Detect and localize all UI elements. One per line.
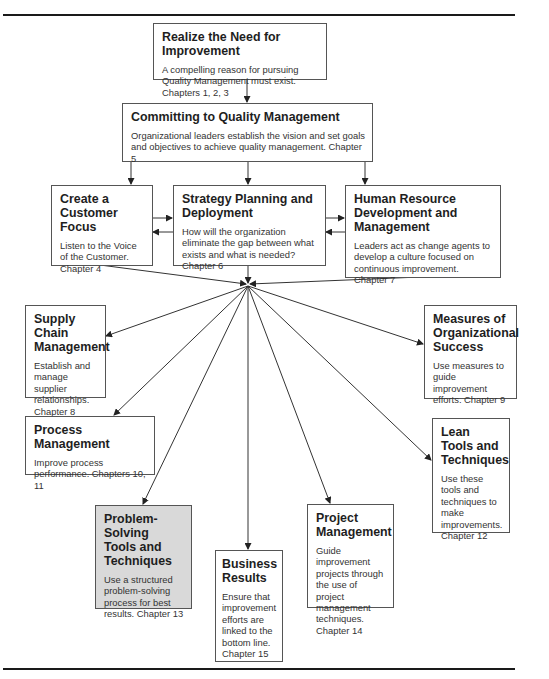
- box-human-resource: Human Resource Development and Managemen…: [345, 185, 501, 278]
- box-title: Project Management: [316, 511, 386, 539]
- box-title: Problem-Solving Tools and Techniques: [104, 512, 184, 568]
- box-title: Strategy Planning and Deployment: [182, 192, 318, 220]
- box-strategy: Strategy Planning and Deployment How wil…: [173, 185, 326, 266]
- box-supply-chain: Supply Chain Management Establish and ma…: [25, 305, 106, 398]
- box-description: Use a structured problem-solving process…: [104, 574, 184, 620]
- bottom-rule: [3, 668, 515, 670]
- box-description: A compelling reason for pursuing Quality…: [162, 64, 319, 98]
- box-title: Committing to Quality Management: [131, 110, 365, 124]
- box-title: Measures of Organizational Success: [433, 312, 509, 354]
- box-customer-focus: Create a Customer Focus Listen to the Vo…: [51, 185, 153, 266]
- box-title: Human Resource Development and Managemen…: [354, 192, 493, 234]
- box-title: Lean Tools and Techniques: [441, 425, 502, 467]
- box-title: Supply Chain Management: [34, 312, 98, 354]
- box-problem-solving: Problem-Solving Tools and Techniques Use…: [95, 505, 192, 609]
- box-lean: Lean Tools and Techniques Use these tool…: [432, 418, 510, 533]
- box-title: Process Management: [34, 423, 147, 451]
- box-description: Leaders act as change agents to develop …: [354, 240, 493, 286]
- box-project-mgmt: Project Management Guide improvement pro…: [307, 504, 394, 608]
- box-description: Improve process performance. Chapters 10…: [34, 457, 147, 491]
- box-description: Use these tools and techniques to make i…: [441, 473, 502, 541]
- box-description: Organizational leaders establish the vis…: [131, 130, 365, 164]
- box-description: Establish and manage supplier relationsh…: [34, 360, 98, 417]
- box-realize-need: Realize the Need for Improvement A compe…: [153, 23, 327, 80]
- box-process-mgmt: Process Management Improve process perfo…: [25, 416, 155, 475]
- box-title: Realize the Need for Improvement: [162, 30, 319, 58]
- box-title: Create a Customer Focus: [60, 192, 145, 234]
- box-description: Listen to the Voice of the Customer. Cha…: [60, 240, 145, 274]
- box-business-results: Business Results Ensure that improvement…: [215, 550, 283, 662]
- box-description: Guide improvement projects through the u…: [316, 545, 386, 636]
- box-measures: Measures of Organizational Success Use m…: [424, 305, 517, 399]
- box-title: Business Results: [222, 557, 278, 585]
- box-description: Ensure that improvement efforts are link…: [222, 591, 278, 659]
- box-description: Use measures to guide improvement effort…: [433, 360, 509, 406]
- box-committing: Committing to Quality Management Organiz…: [122, 103, 373, 162]
- box-description: How will the organization eliminate the …: [182, 226, 318, 272]
